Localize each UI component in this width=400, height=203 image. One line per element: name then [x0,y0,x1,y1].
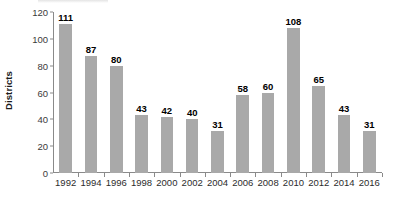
bar-chart: Districts 020406080100120 11187804342403… [0,0,400,203]
bar-slot: 42 [154,12,179,173]
bar[interactable] [338,115,351,173]
bar-slot: 43 [129,12,154,173]
y-tick-label: 100 [32,33,48,44]
bar[interactable] [85,56,98,173]
bar-value-label: 43 [331,103,356,114]
bar-value-label: 87 [78,44,103,55]
x-axis-label: 2000 [154,177,179,188]
x-axis-label: 2014 [331,177,356,188]
x-axis-label: 2004 [205,177,230,188]
bar-value-label: 42 [154,105,179,116]
bar-value-label: 60 [255,81,280,92]
x-axis-label: 1996 [104,177,129,188]
x-axis-label: 2002 [180,177,205,188]
y-tick-label: 80 [37,60,48,71]
bar[interactable] [363,131,376,173]
bar-value-label: 108 [281,16,306,27]
bar-slot: 65 [306,12,331,173]
bar-slot: 40 [180,12,205,173]
bars-layer: 1118780434240315860108654331 [53,12,382,173]
bar[interactable] [135,115,148,173]
bar-value-label: 111 [53,12,78,23]
bar-value-label: 31 [205,119,230,130]
x-axis-label: 1992 [53,177,78,188]
bar-value-label: 43 [129,103,154,114]
bar-slot: 80 [104,12,129,173]
y-tick-label: 60 [37,87,48,98]
x-axis-label: 1994 [78,177,103,188]
cropped-title-artifact [38,0,108,3]
bar[interactable] [236,95,249,173]
bar[interactable] [161,117,174,173]
bar-value-label: 58 [230,83,255,94]
x-axis-label: 2012 [306,177,331,188]
bar[interactable] [59,24,72,173]
bar-slot: 31 [357,12,382,173]
bar[interactable] [287,28,300,173]
bar-slot: 87 [78,12,103,173]
bar-value-label: 65 [306,74,331,85]
y-axis-title: Districts [0,0,16,180]
bar-slot: 60 [255,12,280,173]
y-axis-title-label: Districts [3,71,14,110]
x-tick-mark [382,173,383,177]
bar[interactable] [312,86,325,173]
x-axis-label: 2016 [357,177,382,188]
y-tick-label: 20 [37,141,48,152]
x-axis-label: 2010 [281,177,306,188]
bar-slot: 108 [281,12,306,173]
x-axis-label: 2006 [230,177,255,188]
x-axis-label: 1998 [129,177,154,188]
y-tick-label: 0 [43,168,48,179]
x-axis-label: 2008 [255,177,280,188]
bar-slot: 111 [53,12,78,173]
bar-slot: 31 [205,12,230,173]
x-axis-labels: 1992199419961998200020022004200620082010… [53,177,382,193]
bar-value-label: 31 [357,119,382,130]
bar-value-label: 40 [180,107,205,118]
bar-value-label: 80 [104,54,129,65]
bar-slot: 58 [230,12,255,173]
y-tick-label: 120 [32,7,48,18]
bar[interactable] [110,66,123,173]
bar-slot: 43 [331,12,356,173]
bar[interactable] [186,119,199,173]
y-tick-label: 40 [37,114,48,125]
bar[interactable] [262,93,275,174]
bar[interactable] [211,131,224,173]
plot-area: 020406080100120 111878043424031586010865… [53,12,382,173]
